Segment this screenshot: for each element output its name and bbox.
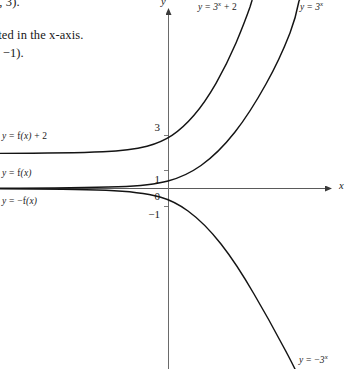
graph-canvas bbox=[0, 0, 350, 369]
y-axis-label: y bbox=[161, 0, 166, 7]
curve-label-neg-exp: y = −3x bbox=[299, 355, 328, 365]
curve-label-neg-fx: y = −f(x) bbox=[2, 196, 37, 206]
figure-page: 0, 3). ected in the x-axis. 0, −1). bbox=[0, 0, 350, 369]
y-tick-label-3: 3 bbox=[142, 121, 160, 133]
curve-exp bbox=[0, 0, 300, 188]
curve-label-fx-plus-2: y = f(x) + 2 bbox=[2, 131, 47, 141]
y-tick-label-0: 0 bbox=[142, 190, 160, 202]
curve-label-exp-shifted: y = 3x + 2 bbox=[198, 2, 237, 12]
curve-label-fx: y = f(x) bbox=[2, 168, 32, 178]
y-tick-label-1: 1 bbox=[142, 173, 160, 185]
x-axis-label: x bbox=[339, 180, 344, 191]
curve-label-exp: y = 3x bbox=[300, 2, 323, 12]
y-tick-label-neg-1: −1 bbox=[136, 208, 160, 220]
graph-figure: y = 3x + 2 y = 3x y = −3x y = f(x) + 2 y… bbox=[0, 0, 350, 369]
